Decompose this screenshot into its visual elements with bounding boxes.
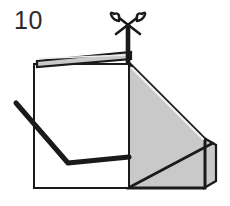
front-white-panel [34,64,129,188]
scissors-pivot [126,24,130,28]
front-white-panel-group [34,64,129,188]
scissors-handle-left [111,13,119,21]
diagram-illustration [0,0,230,206]
shaded-side-panel-group [128,62,216,188]
figure-canvas: 10 [0,0,230,206]
scissors-handle-right [137,13,145,21]
